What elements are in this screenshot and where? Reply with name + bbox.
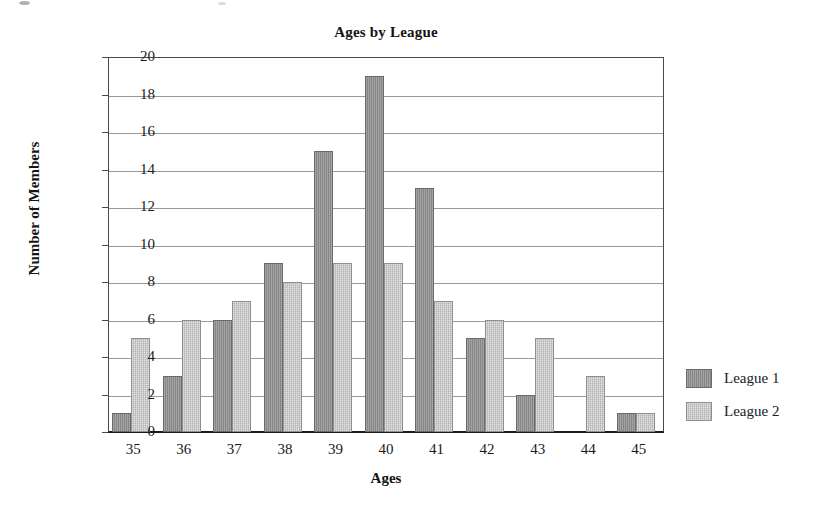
legend-swatch [686, 402, 712, 421]
y-axis-tick-label: 8 [115, 273, 155, 290]
bar [434, 301, 453, 432]
y-axis-tick-mark [102, 432, 108, 433]
y-axis-tick-label: 12 [115, 198, 155, 215]
bar [182, 320, 201, 433]
bar-group [411, 57, 462, 432]
y-axis-tick-mark [102, 282, 108, 283]
legend-label: League 1 [724, 370, 779, 387]
x-axis-tick-label: 36 [159, 441, 209, 458]
x-axis-tick-label: 45 [614, 441, 664, 458]
y-axis-tick-mark [102, 320, 108, 321]
y-axis-tick-label: 2 [115, 386, 155, 403]
y-axis-tick-label: 14 [115, 161, 155, 178]
y-axis-tick-mark [102, 245, 108, 246]
x-axis-tick-label: 37 [209, 441, 259, 458]
y-axis-tick-label: 0 [115, 423, 155, 440]
scan-artifact [218, 2, 226, 5]
y-axis-tick-label: 16 [115, 123, 155, 140]
y-axis-tick-mark [102, 395, 108, 396]
bar [466, 338, 485, 432]
x-axis-tick-label: 40 [361, 441, 411, 458]
legend-swatch [686, 369, 712, 388]
y-axis-tick-label: 10 [115, 236, 155, 253]
bar-group [512, 57, 563, 432]
bar-group [260, 57, 311, 432]
bar [516, 395, 535, 433]
bar [365, 76, 384, 432]
bar-group [613, 57, 664, 432]
bar [485, 320, 504, 433]
legend-label: League 2 [724, 403, 779, 420]
legend-item: League 2 [686, 395, 779, 428]
y-axis-tick-mark [102, 95, 108, 96]
y-axis-tick-mark [102, 207, 108, 208]
y-axis-title: Number of Members [26, 89, 43, 329]
bar-group [563, 57, 614, 432]
x-axis-tick-label: 39 [310, 441, 360, 458]
bar [264, 263, 283, 432]
bar-group [209, 57, 260, 432]
bar-group [361, 57, 412, 432]
bar [415, 188, 434, 432]
x-axis-title: Ages [108, 470, 664, 487]
y-axis-tick-label: 18 [115, 86, 155, 103]
bar [213, 320, 232, 433]
bar [333, 263, 352, 432]
chart-title: Ages by League [108, 24, 664, 41]
bar-group [159, 57, 210, 432]
y-axis-tick-mark [102, 357, 108, 358]
bar [617, 413, 636, 432]
bar [636, 413, 655, 432]
y-axis-tick-mark [102, 57, 108, 58]
bar [384, 263, 403, 432]
bar [535, 338, 554, 432]
y-axis-tick-mark [102, 132, 108, 133]
y-axis-tick-label: 4 [115, 348, 155, 365]
y-axis-tick-mark [102, 170, 108, 171]
x-axis-tick-label: 38 [260, 441, 310, 458]
chart-figure: Ages by League Number of Members 0246810… [0, 0, 827, 517]
legend-item: League 1 [686, 362, 779, 395]
bar [163, 376, 182, 432]
bar [314, 151, 333, 432]
x-axis-tick-label: 44 [563, 441, 613, 458]
y-axis-tick-label: 6 [115, 311, 155, 328]
bar [283, 282, 302, 432]
x-axis-tick-label: 43 [513, 441, 563, 458]
chart-legend: League 1League 2 [686, 362, 779, 428]
y-axis-tick-label: 20 [115, 48, 155, 65]
scan-artifact [19, 1, 30, 5]
bar-group [462, 57, 513, 432]
bars-layer [108, 57, 664, 432]
bar-group [310, 57, 361, 432]
x-axis-tick-label: 42 [462, 441, 512, 458]
x-axis-tick-label: 41 [412, 441, 462, 458]
bar [586, 376, 605, 432]
bar [232, 301, 251, 432]
x-axis-tick-label: 35 [108, 441, 158, 458]
